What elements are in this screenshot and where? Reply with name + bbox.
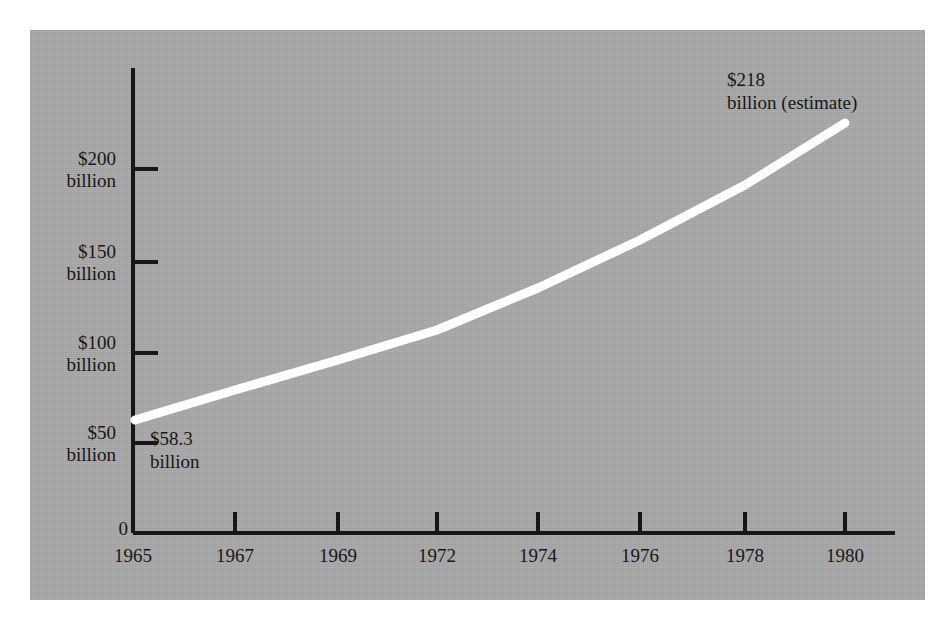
start-value-annotation-line2: billion: [150, 450, 200, 473]
x-tick-label-1972: 1972: [397, 545, 477, 567]
chart-page: $200 billion $150 billion $100 billion $…: [0, 0, 952, 636]
x-tick-label-1978: 1978: [705, 545, 785, 567]
start-value-annotation: $58.3 billion: [150, 427, 200, 473]
y-tick-label-50-value: $50: [6, 422, 116, 444]
chart-panel: [30, 30, 925, 600]
y-tick-label-200: $200 billion: [6, 148, 116, 192]
x-tick-label-1967: 1967: [195, 545, 275, 567]
x-tick-label-1965: 1965: [93, 545, 173, 567]
end-value-annotation-line1: $218: [727, 68, 857, 91]
y-tick-label-100: $100 billion: [6, 332, 116, 376]
y-tick-label-50-unit: billion: [6, 444, 116, 466]
y-axis-origin-label: 0: [88, 518, 128, 540]
y-tick-label-150-unit: billion: [6, 263, 116, 285]
y-tick-label-100-unit: billion: [6, 354, 116, 376]
y-tick-label-100-value: $100: [6, 332, 116, 354]
x-tick-label-1980: 1980: [805, 545, 885, 567]
y-tick-label-150-value: $150: [6, 241, 116, 263]
start-value-annotation-line1: $58.3: [150, 427, 200, 450]
end-value-annotation-line2: billion (estimate): [727, 91, 857, 114]
end-value-annotation: $218 billion (estimate): [727, 68, 857, 114]
y-tick-label-150: $150 billion: [6, 241, 116, 285]
x-tick-label-1969: 1969: [298, 545, 378, 567]
x-tick-label-1974: 1974: [498, 545, 578, 567]
y-tick-label-50: $50 billion: [6, 422, 116, 466]
y-tick-label-200-unit: billion: [6, 170, 116, 192]
x-tick-label-1976: 1976: [600, 545, 680, 567]
y-tick-label-200-value: $200: [6, 148, 116, 170]
